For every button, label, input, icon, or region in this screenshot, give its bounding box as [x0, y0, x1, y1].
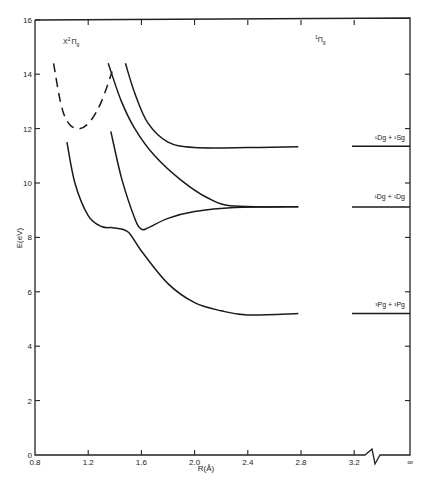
- asymptote-label-top: ¹Dg + ¹Sg: [375, 134, 405, 142]
- x-tick-label: 2.8: [295, 458, 307, 467]
- x-tick-label: 3.2: [349, 458, 361, 467]
- y-tick-label: 12: [23, 125, 32, 134]
- potential-energy-chart: 02468101214160.81.21.62.02.42.83.2∞ R(Å)…: [0, 0, 422, 484]
- y-tick-label: 14: [23, 70, 32, 79]
- y-tick-label: 6: [28, 288, 33, 297]
- x-axis-label: R(Å): [198, 464, 215, 473]
- curve-0: [54, 63, 113, 128]
- y-tick-label: 16: [23, 16, 32, 25]
- x-tick-label: 1.2: [83, 458, 95, 467]
- ticks: 02468101214160.81.21.62.02.42.83.2∞: [23, 16, 413, 467]
- asymptote-label-mid: ¹Dg + ¹Dg: [374, 193, 405, 201]
- y-tick-label: 4: [28, 342, 33, 351]
- axis-frame: [35, 18, 410, 464]
- asymptote-lines: [352, 146, 410, 313]
- curve-2: [108, 63, 298, 207]
- x-tick-label: 1.6: [136, 458, 148, 467]
- x-tick-label: ∞: [407, 458, 413, 467]
- y-tick-label: 8: [28, 233, 33, 242]
- symmetry-label: 1Πg: [315, 34, 326, 45]
- y-tick-label: 10: [23, 179, 32, 188]
- ion-state-label: X2Πg: [63, 36, 80, 47]
- asymptote-label-low: ³Pg + ³Pg: [375, 301, 405, 309]
- y-tick-label: 2: [28, 397, 33, 406]
- curve-3: [111, 131, 298, 230]
- curve-4: [67, 142, 298, 315]
- axes: [35, 18, 410, 464]
- curve-1: [125, 63, 298, 148]
- curves: [54, 63, 299, 315]
- x-tick-label: 2.4: [242, 458, 254, 467]
- x-tick-label: 0.8: [29, 458, 41, 467]
- y-axis-label: E(eV): [15, 227, 24, 248]
